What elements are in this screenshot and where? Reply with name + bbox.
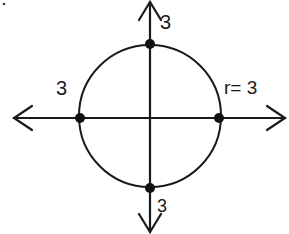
point-left xyxy=(75,113,85,123)
label-bottom: 3 xyxy=(157,196,167,216)
label-left: 3 xyxy=(56,77,67,99)
label-radius: r= 3 xyxy=(224,77,257,98)
point-bottom xyxy=(145,183,155,193)
point-top xyxy=(145,39,155,49)
point-right xyxy=(214,113,224,123)
label-top: 3 xyxy=(160,11,171,33)
diagram-canvas: 3 3 r= 3 3 xyxy=(0,0,289,234)
speck-dot xyxy=(3,3,6,6)
